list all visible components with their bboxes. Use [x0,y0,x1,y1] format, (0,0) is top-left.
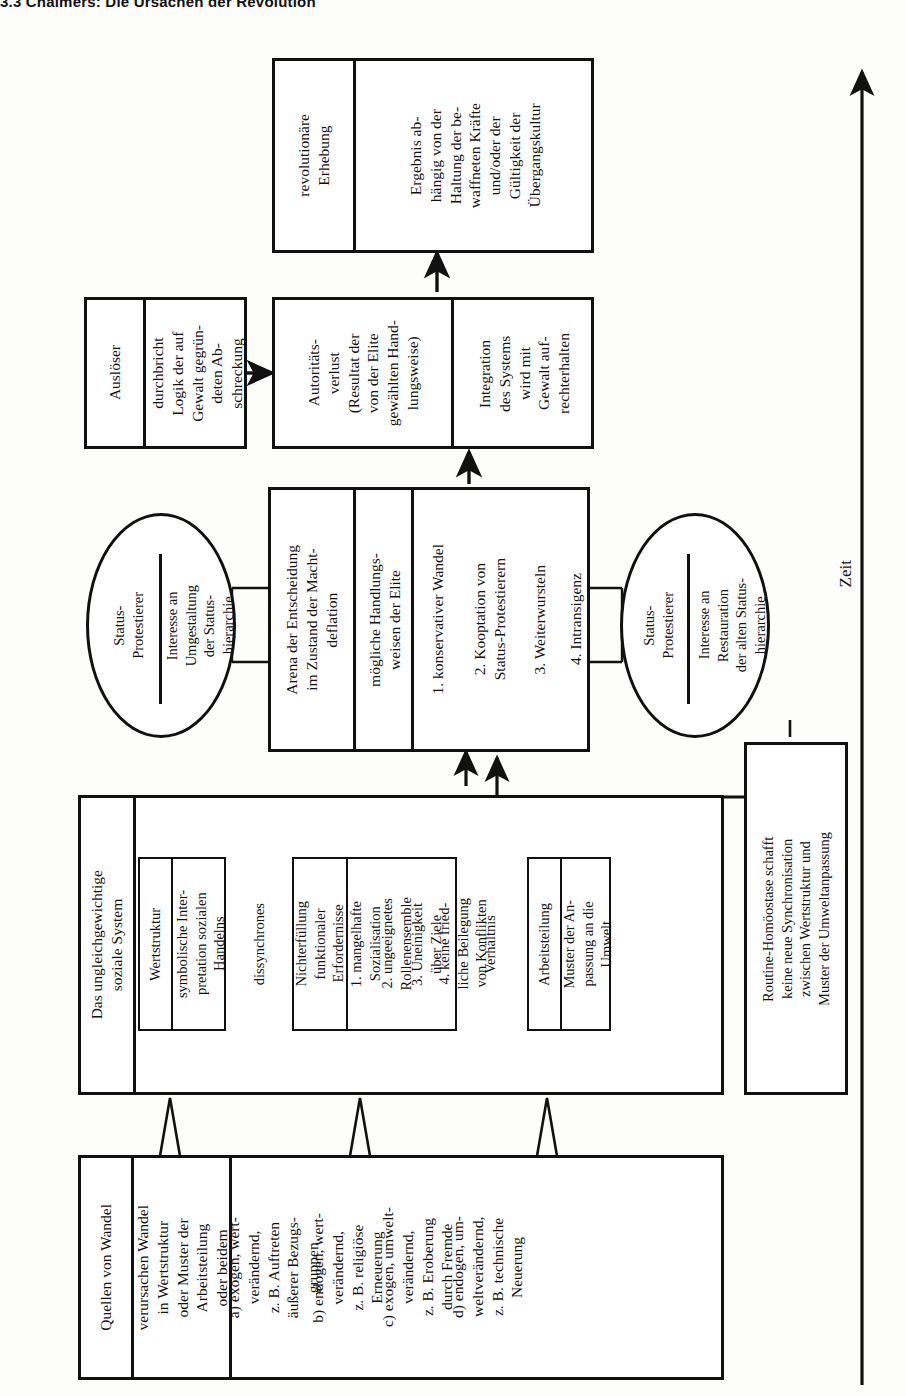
sources-title-cell: Quellen von Wandel [81,1158,131,1377]
division-body-cell: Muster der An- passung an die Umwelt [564,859,611,1029]
arena-title-cell: Arena der Entscheidung im Zustand der Ma… [271,490,353,749]
circle-right-body-cell: Interesse an Restauration der alten Stat… [695,516,769,735]
trigger-title-cell: Auslöser [87,300,143,446]
source-item-b-label: b) endogen, wert- verändernd, z. B. reli… [308,1213,387,1323]
revolution-divider [353,61,356,250]
sources-effect: verursachen Wandel in Wertstruktur oder … [133,1205,232,1330]
division-body: Muster der An- passung an die Umwelt [560,900,616,989]
dysfunction-box: Nichterfüllung funktionaler Erforderniss… [292,857,457,1031]
circle-left-body-cell: Interesse an Umgestaltung der Status- hi… [167,516,233,735]
arena-title: Arena der Entscheidung im Zustand der Ma… [282,545,341,695]
revolution-title-cell: revolutionäre Erhebung [275,61,353,250]
arena-option-3: 3. Weiterwursteln [521,490,559,749]
revolution-body-cell: Ergebnis ab- hängig von der Haltung der … [359,61,591,250]
arena-option-4-label: 4. Intransigenz [566,573,586,665]
source-item-a: a) exogen, wert- verändernd, z. B. Auftr… [235,1158,313,1377]
value-structure-title-cell: Wertstruktur [140,859,171,1029]
value-structure-body-cell: symbolische Inter- pretation sozialen Ha… [175,859,226,1029]
circle-left-divider [159,554,162,704]
trigger-divider [143,300,146,446]
circle-status-protesters-right: Status- Protestierer Interesse an Restau… [620,513,770,738]
division-title: Arbeitsteilung [535,903,554,986]
arena-subtitle: mögliche Handlungs- weisen der Elite [365,553,405,687]
arena-option-1-label: 1. konservativer Wandel [428,544,448,694]
spring-label-1-text: dissynchrones [250,903,269,985]
circle-status-protesters-left: Status- Protestierer Interesse an Umgest… [86,513,236,738]
source-item-d: d) endogen, um- weltverändernd, z. B. te… [453,1158,523,1377]
arena-option-3-label: 3. Weiterwursteln [530,565,550,675]
arena-divider-2 [411,490,414,749]
division-title-cell: Arbeitsteilung [529,859,560,1029]
arena-box: Arena der Entscheidung im Zustand der Ma… [268,487,590,752]
spring-label-dissynchrones: dissynchrones [246,857,272,1031]
page-header: 3.3 Chalmers: Die Ursachen der Revolutio… [0,0,906,11]
trigger-title: Auslöser [105,345,125,400]
arena-divider-1 [353,490,356,749]
value-structure-body: symbolische Inter- pretation sozialen Ha… [173,890,229,998]
authority-box: Autoritäts- verlust (Resultat der von de… [272,297,594,449]
trigger-box: Auslöser durchbricht Logik der auf Gewal… [84,297,247,449]
circle-right-title: Status- Protestierer [640,592,677,659]
arena-option-2: 2. Kooptation von Status-Protestierern [459,490,521,749]
revolution-body: Ergebnis ab- hängig von der Haltung der … [406,103,545,208]
dysfunction-title-cell: Nichterfüllung funktionaler Erforderniss… [294,859,346,1029]
dysfunction-item-1: 1. mangelhafte Sozialisation [350,859,381,1029]
authority-body: Integration des Systems wird mit Gewalt … [475,333,574,414]
circle-right-title-cell: Status- Protestierer [633,516,685,735]
system-divider [133,798,136,1092]
authority-body-cell: Integration des Systems wird mit Gewalt … [457,300,593,446]
homeostasis-body: Routine-Homöostase schafft keine neue Sy… [759,832,833,1006]
system-title-cell: Das ungleichgewichtige soziale System [81,798,133,1092]
sources-title: Quellen von Wandel [96,1204,116,1331]
dysfunction-title: Nichterfüllung funktionaler Erforderniss… [292,901,348,986]
arena-option-4: 4. Intransigenz [559,490,593,749]
value-structure-box: Wertstruktur symbolische Inter- pretatio… [138,857,226,1031]
value-structure-title: Wertstruktur [146,908,165,981]
arena-subtitle-cell: mögliche Handlungs- weisen der Elite [359,490,411,749]
homeostasis-body-cell: Routine-Homöostase schafft keine neue Sy… [747,745,845,1092]
authority-divider [451,300,454,446]
arena-option-2-label: 2. Kooptation von Status-Protestierern [470,558,510,680]
source-item-b: b) endogen, wert- verändernd, z. B. reli… [313,1158,383,1377]
circle-right-body: Interesse an Restauration der alten Stat… [695,578,769,672]
source-item-d-label: d) endogen, um- weltverändernd, z. B. te… [448,1216,527,1318]
division-of-labour-box: Arbeitsteilung Muster der An- passung an… [527,857,611,1031]
sources-effect-cell: verursachen Wandel in Wertstruktur oder … [137,1158,229,1377]
homeostasis-box: Routine-Homöostase schafft keine neue Sy… [744,742,848,1095]
revolution-title: revolutionäre Erhebung [294,114,334,197]
time-axis-text: Zeit [836,560,856,587]
revolution-box: revolutionäre Erhebung Ergebnis ab- häng… [272,58,594,253]
time-axis-label: Zeit [836,560,860,620]
spring-label-verhaeltnis: Verhältnis [477,857,503,1031]
source-item-c-label: c) exogen, umwelt- verändernd, z. B. Ero… [378,1207,457,1327]
circle-left-body: Interesse an Umgestaltung der Status- hi… [163,585,237,666]
trigger-body: durchbricht Logik der auf Gewalt gegrün-… [148,325,247,422]
system-title: Das ungleichgewichtige soziale System [87,870,127,1019]
trigger-body-cell: durchbricht Logik der auf Gewalt gegrün-… [149,300,246,446]
authority-title-cell: Autoritäts- verlust (Resultat der von de… [275,300,451,446]
circle-right-divider [687,554,690,704]
circle-left-title: Status- Protestierer [110,592,147,659]
spring-label-2-text: Verhältnis [481,915,500,974]
arena-option-1: 1. konservativer Wandel [417,490,459,749]
circle-left-title-cell: Status- Protestierer [103,516,155,735]
authority-title: Autoritäts- verlust (Resultat der von de… [304,320,423,426]
source-item-c: c) exogen, umwelt- verändernd, z. B. Ero… [383,1158,453,1377]
sources-box: Quellen von Wandel verursachen Wandel in… [78,1155,724,1380]
